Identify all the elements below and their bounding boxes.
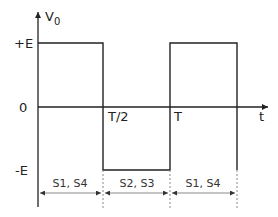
time-mark-full: T bbox=[173, 109, 182, 124]
time-mark-half: T/2 bbox=[107, 109, 129, 124]
y-axis-label: V0 bbox=[45, 9, 60, 27]
level-zero-label: 0 bbox=[19, 100, 27, 115]
interval-label-1: S1, S4 bbox=[53, 177, 88, 190]
level-neg-label: -E bbox=[15, 163, 28, 178]
square-wave-diagram: V0 t +E 0 -E T/2 T S1, S4 S2, S3 S1, S4 bbox=[0, 0, 278, 217]
interval-label-2: S2, S3 bbox=[120, 177, 155, 190]
level-pos-label: +E bbox=[14, 36, 33, 51]
interval-label-3: S1, S4 bbox=[186, 177, 221, 190]
x-axis-label: t bbox=[259, 109, 264, 124]
